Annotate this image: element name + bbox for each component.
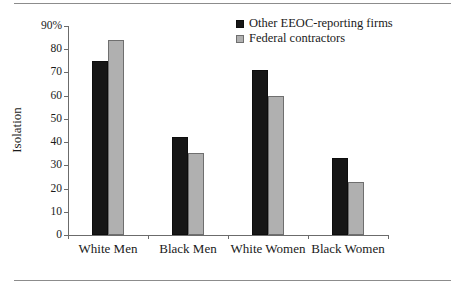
- bottom-divider-rule: [14, 280, 451, 281]
- legend-swatch-icon-series-0: [236, 20, 244, 28]
- top-divider-rule: [14, 3, 451, 4]
- bar-black-women-series-0: [332, 158, 348, 235]
- legend-label-series-0: Other EEOC-reporting firms: [249, 16, 393, 31]
- bar-black-men-series-1: [188, 153, 204, 235]
- y-tick-mark: [64, 189, 68, 190]
- x-category-label-black-men: Black Men: [159, 242, 216, 255]
- x-category-label-white-men: White Men: [79, 242, 138, 255]
- bar-group-white-women: [252, 26, 284, 235]
- figure-container: Isolation 0102030405060708090% White Men…: [0, 0, 465, 290]
- x-tick-mark-1: [148, 235, 149, 239]
- y-tick-mark: [64, 165, 68, 166]
- y-tick-label: 0: [56, 229, 62, 241]
- y-tick-label: 10: [51, 206, 63, 218]
- x-tick-mark-3: [308, 235, 309, 239]
- y-tick-mark: [64, 142, 68, 143]
- bar-black-women-series-1: [348, 182, 364, 235]
- x-category-label-black-women: Black Women: [311, 242, 384, 255]
- x-tick-mark-2: [228, 235, 229, 239]
- bar-white-men-series-1: [108, 40, 124, 235]
- y-tick-label: 20: [51, 183, 63, 195]
- bar-white-women-series-1: [268, 96, 284, 235]
- legend-item-series-0: Other EEOC-reporting firms: [236, 16, 393, 31]
- y-tick-mark: [64, 96, 68, 97]
- y-tick-mark: [64, 119, 68, 120]
- y-tick-mark: [64, 72, 68, 73]
- x-tick-mark-4: [388, 235, 389, 239]
- y-tick-mark: [64, 212, 68, 213]
- y-tick-mark: [64, 49, 68, 50]
- y-tick-label: 80: [51, 43, 63, 55]
- y-tick-label: 90%: [41, 20, 62, 32]
- x-category-label-white-women: White Women: [231, 242, 306, 255]
- bar-white-women-series-0: [252, 70, 268, 235]
- legend-swatch-icon-series-1: [236, 35, 244, 43]
- bar-group-white-men: [92, 26, 124, 235]
- y-tick-label: 70: [51, 67, 63, 79]
- plot-area: 0102030405060708090% White MenBlack MenW…: [68, 26, 388, 235]
- y-tick-label: 60: [51, 90, 63, 102]
- x-tick-mark-0: [68, 235, 69, 239]
- y-tick-label: 50: [51, 113, 63, 125]
- legend-item-series-1: Federal contractors: [236, 31, 393, 46]
- bar-black-men-series-0: [172, 137, 188, 235]
- y-tick-mark: [64, 26, 68, 27]
- y-tick-label: 40: [51, 136, 63, 148]
- bar-group-black-men: [172, 26, 204, 235]
- bar-white-men-series-0: [92, 61, 108, 235]
- y-tick-label: 30: [51, 160, 63, 172]
- y-axis-line: [68, 26, 69, 235]
- legend-label-series-1: Federal contractors: [249, 31, 345, 46]
- chart-legend: Other EEOC-reporting firms Federal contr…: [236, 16, 393, 46]
- bar-group-black-women: [332, 26, 364, 235]
- y-axis-title: Isolation: [9, 107, 25, 153]
